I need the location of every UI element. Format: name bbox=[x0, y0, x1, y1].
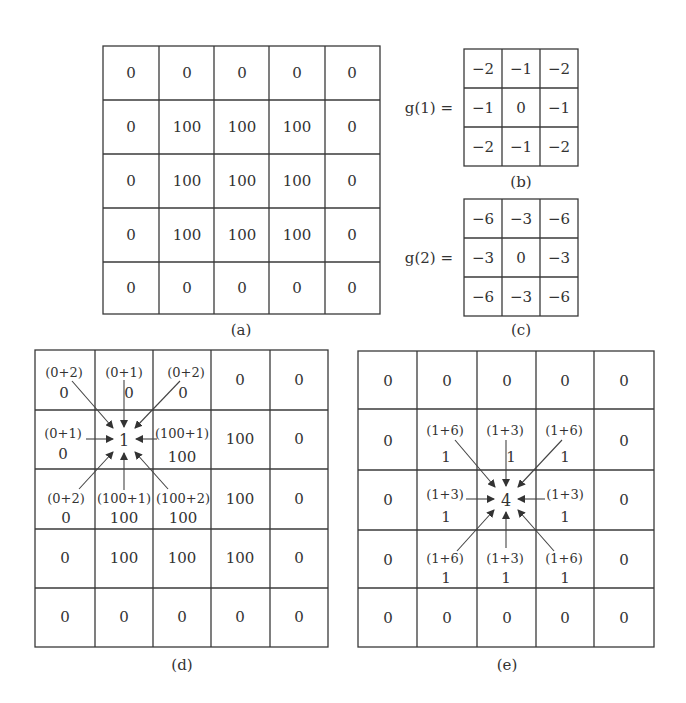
cell: 0 bbox=[347, 279, 357, 297]
kernel-cell: −2 bbox=[548, 60, 570, 78]
arrow-icon bbox=[135, 381, 180, 428]
cell: 0 bbox=[177, 608, 187, 626]
neighbor-value-bl: 1 bbox=[441, 569, 451, 587]
cell: 0 bbox=[502, 372, 512, 390]
cell: 100 bbox=[226, 490, 255, 508]
cell: 0 bbox=[182, 64, 192, 82]
panel-b-label: (b) bbox=[510, 173, 531, 191]
center-value: 4 bbox=[501, 491, 511, 510]
neighbor-value-l: 0 bbox=[58, 445, 68, 463]
neighbor-value-br: 1 bbox=[560, 569, 570, 587]
cell: 0 bbox=[619, 432, 629, 450]
kernel-cell: −6 bbox=[548, 288, 570, 306]
kernel-cell: −2 bbox=[472, 138, 494, 156]
arrow-icon bbox=[79, 452, 113, 489]
cell: 100 bbox=[173, 118, 202, 136]
neighbor-expr-r: (1+3) bbox=[546, 487, 584, 502]
neighbor-value-t: 0 bbox=[124, 384, 134, 402]
cell: 0 bbox=[126, 64, 136, 82]
cell: 0 bbox=[560, 609, 570, 627]
cell: 0 bbox=[294, 549, 304, 567]
neighbor-expr-t: (0+1) bbox=[105, 365, 143, 380]
cell: 0 bbox=[235, 371, 245, 389]
cell: 0 bbox=[294, 371, 304, 389]
cell: 0 bbox=[237, 279, 247, 297]
cell: 0 bbox=[119, 608, 129, 626]
kernel-cell: −3 bbox=[472, 249, 494, 267]
neighbor-expr-tl: (0+2) bbox=[45, 365, 83, 380]
cell: 0 bbox=[60, 549, 70, 567]
center-value: 1 bbox=[119, 431, 129, 450]
cell: 0 bbox=[442, 609, 452, 627]
cell: 0 bbox=[292, 64, 302, 82]
panel-a: 0 0 0 0 0 0 100 100 100 0 0 100 100 100 … bbox=[103, 46, 380, 339]
panel-b: g(1) = −2 −1 −2 −1 0 −1 −2 −1 −2 (b) bbox=[405, 49, 578, 191]
cell: 0 bbox=[235, 608, 245, 626]
cell: 0 bbox=[237, 64, 247, 82]
neighbor-expr-tl: (1+6) bbox=[426, 423, 464, 438]
cell: 0 bbox=[383, 491, 393, 509]
cell: 100 bbox=[283, 172, 312, 190]
neighbor-value-tr: 1 bbox=[560, 448, 570, 466]
kernel-cell: −1 bbox=[548, 99, 570, 117]
cell: 0 bbox=[182, 279, 192, 297]
neighbor-expr-l: (1+3) bbox=[426, 487, 464, 502]
kernel-cell: −6 bbox=[472, 288, 494, 306]
neighbor-value-bl: 0 bbox=[61, 509, 71, 527]
cell: 100 bbox=[228, 172, 257, 190]
cell: 100 bbox=[228, 118, 257, 136]
kernel-cell: −1 bbox=[472, 99, 494, 117]
panel-e-label: (e) bbox=[497, 656, 518, 674]
neighbor-value-br: 100 bbox=[169, 509, 198, 527]
neighbor-expr-tr: (1+6) bbox=[545, 423, 583, 438]
kernel-cell: −6 bbox=[472, 210, 494, 228]
arrow-icon bbox=[518, 440, 562, 487]
kernel-cell: 0 bbox=[516, 249, 526, 267]
kernel-cell: −2 bbox=[472, 60, 494, 78]
panel-d-neighborhood: (0+2) 0 (0+1) 0 (0+2) 0 (0+1) 0 1 (100+1… bbox=[44, 365, 210, 528]
kernel-cell: −2 bbox=[548, 138, 570, 156]
neighbor-expr-b: (1+3) bbox=[486, 551, 524, 566]
panel-e-neighborhood: (1+6) 1 (1+3) 1 (1+6) 1 (1+3) 1 4 (1+3) … bbox=[426, 423, 584, 588]
cell: 0 bbox=[294, 490, 304, 508]
panel-a-label: (a) bbox=[231, 321, 252, 339]
cell: 0 bbox=[294, 608, 304, 626]
cell: 0 bbox=[442, 372, 452, 390]
kernel-cell: −6 bbox=[548, 210, 570, 228]
cell: 0 bbox=[502, 609, 512, 627]
kernel-cell: 0 bbox=[516, 99, 526, 117]
neighbor-expr-r: (100+1) bbox=[155, 426, 209, 441]
cell: 0 bbox=[347, 64, 357, 82]
panel-c-label: (c) bbox=[511, 321, 531, 339]
cell: 0 bbox=[126, 172, 136, 190]
neighbor-expr-br: (1+6) bbox=[545, 551, 583, 566]
cell: 0 bbox=[383, 609, 393, 627]
cell: 0 bbox=[347, 172, 357, 190]
cell: 100 bbox=[173, 226, 202, 244]
neighbor-value-tl: 1 bbox=[441, 448, 451, 466]
cell: 100 bbox=[283, 226, 312, 244]
cell: 100 bbox=[168, 549, 197, 567]
neighbor-value-tr: 0 bbox=[178, 384, 188, 402]
cell: 0 bbox=[619, 609, 629, 627]
cell: 100 bbox=[110, 549, 139, 567]
panel-b-values: −2 −1 −2 −1 0 −1 −2 −1 −2 bbox=[472, 60, 570, 156]
kernel-g2-equation: g(2) = bbox=[405, 249, 453, 267]
cell: 0 bbox=[126, 226, 136, 244]
kernel-g1-equation: g(1) = bbox=[405, 99, 453, 117]
cell: 100 bbox=[173, 172, 202, 190]
arrow-icon bbox=[72, 381, 113, 428]
neighbor-expr-t: (1+3) bbox=[486, 423, 524, 438]
cell: 0 bbox=[619, 491, 629, 509]
neighbor-expr-b: (100+1) bbox=[97, 491, 151, 506]
cell: 0 bbox=[619, 551, 629, 569]
panel-c: g(2) = −6 −3 −6 −3 0 −3 −6 −3 −6 (c) bbox=[405, 199, 578, 339]
cell: 0 bbox=[60, 608, 70, 626]
cell: 0 bbox=[619, 372, 629, 390]
cell: 0 bbox=[560, 372, 570, 390]
kernel-cell: −1 bbox=[510, 138, 532, 156]
cell: 0 bbox=[383, 432, 393, 450]
panel-c-values: −6 −3 −6 −3 0 −3 −6 −3 −6 bbox=[472, 210, 570, 306]
panel-d: (0+2) 0 (0+1) 0 (0+2) 0 (0+1) 0 1 (100+1… bbox=[35, 350, 328, 674]
figure-canvas: 0 0 0 0 0 0 100 100 100 0 0 100 100 100 … bbox=[0, 0, 686, 703]
